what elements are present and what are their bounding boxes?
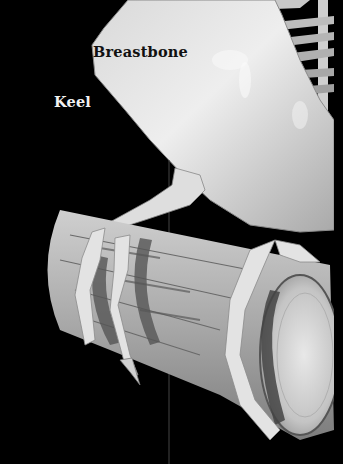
illustration-canvas: Breastbone Keel (0, 0, 343, 464)
leg-bone (110, 168, 205, 228)
label-keel: Keel (54, 93, 91, 110)
label-breastbone: Breastbone (93, 43, 188, 60)
bird-skeleton-illustration (0, 0, 343, 464)
